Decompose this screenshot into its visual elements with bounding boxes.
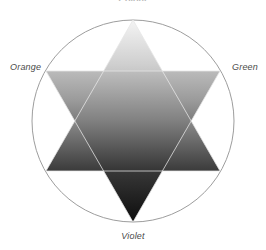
- colour-hexagram-figure: Colour: [0, 0, 266, 250]
- vertex-label-orange: Orange: [10, 62, 41, 72]
- vertex-label-violet: Violet: [0, 231, 266, 241]
- vertex-label-green: Green: [232, 62, 258, 72]
- hexagram-graphic: [0, 0, 266, 250]
